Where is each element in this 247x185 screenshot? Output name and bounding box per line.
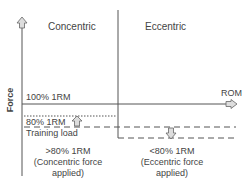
concentric-caption: >80% 1RM (Concentric force applied) (34, 146, 103, 179)
concentric-title: Concentric (48, 22, 96, 32)
level-80-label: 80% 1RM (26, 118, 66, 127)
eccentric-title: Eccentric (145, 22, 186, 32)
up-arrow-icon (72, 116, 82, 126)
rom-arrow-icon (226, 100, 237, 109)
rom-axis-label: ROM (221, 89, 242, 98)
y-axis-arrow-icon (17, 17, 27, 28)
concentric-caption-line2: (Concentric force (34, 157, 103, 168)
eccentric-caption-line2: (Eccentric force (141, 157, 204, 168)
concentric-caption-line3: applied) (34, 168, 103, 179)
force-axis-label: Force (5, 88, 15, 113)
level-100-label: 100% 1RM (26, 93, 71, 102)
eccentric-caption: <80% 1RM (Eccentric force applied) (141, 146, 204, 179)
eccentric-caption-line1: <80% 1RM (141, 146, 204, 157)
concentric-caption-line1: >80% 1RM (34, 146, 103, 157)
training-load-label: Training load (26, 129, 78, 138)
eccentric-caption-line3: applied) (141, 168, 204, 179)
down-arrow-icon (166, 128, 176, 139)
